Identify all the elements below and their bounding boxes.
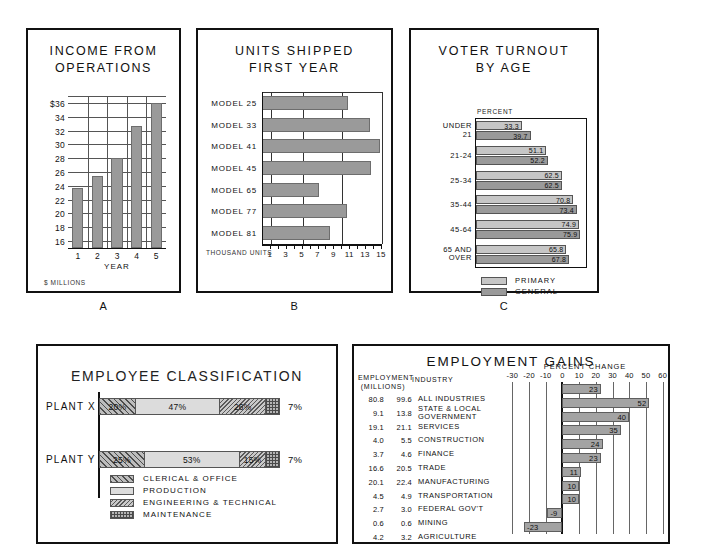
panel-c-age-group: 25-3462.562.5 (476, 168, 586, 193)
panel-c-age-group: 21-2451.152.2 (476, 144, 586, 169)
panel-e-table: 80.899.6ALL INDUSTRIES9.113.8STATE & LOC… (360, 392, 666, 544)
panel-a-y-tick-label: 16 (55, 237, 65, 247)
panel-c-category-label: 21-24 (450, 152, 472, 161)
panel-a-bar (131, 126, 142, 248)
panel-d-legend: CLERICAL & OFFICEPRODUCTIONENGINEERING &… (110, 474, 277, 522)
panel-e-head-employment-line1: EMPLOYMENT (358, 374, 408, 383)
panel-e-industry-label: TRANSPORTATION (418, 491, 493, 499)
panel-d-legend-item: MAINTENANCE (110, 510, 277, 519)
panel-b-tick (365, 244, 366, 249)
panel-c-letter: C (409, 300, 599, 312)
panel-e-tick-label: 20 (591, 371, 600, 380)
panel-e-employment-after: 13.8 (388, 408, 412, 417)
panel-b-tick (286, 244, 287, 249)
panel-d-legend-swatch (110, 487, 134, 495)
panel-b-tick-label: 15 (376, 250, 386, 259)
panel-a-y-tick-label: 18 (55, 223, 65, 233)
panel-e-employment-before: 3.7 (360, 450, 384, 459)
panel-b-row: MODEL 25 (263, 96, 382, 110)
panel-a-y-tick-label: 26 (55, 168, 65, 178)
panel-d-legend-item: CLERICAL & OFFICE (110, 474, 277, 483)
panel-c-plot-area: UNDER2133.339.721-2451.152.225-3462.562.… (475, 118, 587, 268)
panel-b-category-label: MODEL 33 (211, 120, 257, 129)
panel-e-industry-label: TRADE (418, 464, 446, 472)
panel-e-industry-label: CONSTRUCTION (418, 436, 484, 444)
panel-b-tick (325, 244, 326, 249)
panel-e-industry-label: MANUFACTURING (418, 478, 490, 486)
panel-b-tick (318, 244, 319, 249)
panel-e-employment-after: 0.6 (388, 519, 412, 528)
panel-e-tick-label: -20 (523, 371, 534, 380)
panel-e-industry-label-line: ALL INDUSTRIES (418, 395, 486, 403)
panel-a-y-tick-label: 32 (55, 127, 65, 137)
panel-e-table-row: 20.122.4MANUFACTURING (360, 475, 666, 489)
panel-b-bar (263, 183, 319, 197)
panel-a-bar (111, 158, 122, 249)
panel-a-plot-area: 16182022242628303234$3612345 (68, 96, 166, 248)
panel-a-plot-top (68, 96, 166, 97)
panel-e-table-row: 4.23.2AGRICULTURE (360, 530, 666, 544)
panel-d-plant-label: PLANT Y (46, 454, 96, 465)
panel-e-employment-before: 2.7 (360, 505, 384, 514)
panel-c-value-label: 52.2 (530, 157, 544, 164)
figure-sheet: INCOME FROM OPERATIONS 16182022242628303… (0, 0, 701, 546)
panel-e-tick-label: 60 (658, 371, 667, 380)
panel-a-bar (92, 176, 103, 248)
panel-b-tick (294, 244, 295, 249)
panel-a-baseline (68, 248, 166, 249)
panel-e-tick-label: 30 (608, 371, 617, 380)
panel-a-footnote: $ MILLIONS (44, 279, 86, 286)
panel-employee-classification: EMPLOYEE CLASSIFICATION PLANT X20%47%26%… (36, 344, 338, 544)
panel-b-title-line1: UNITS SHIPPED (198, 43, 391, 60)
panel-b-tick (373, 244, 374, 249)
panel-a-x-tick-label: 3 (115, 251, 120, 261)
panel-a-title-line1: INCOME FROM (28, 43, 179, 60)
panel-e-table-row: 0.60.6MINING (360, 516, 666, 530)
panel-c-bar-general: 67.8 (476, 255, 569, 264)
panel-b-plot-area: MODEL 25MODEL 33MODEL 41MODEL 45MODEL 65… (262, 92, 382, 244)
panel-d-segment (266, 399, 279, 414)
panel-c-category-label-line: 21 (443, 131, 472, 140)
panel-d-maintenance-label: 7% (288, 454, 302, 465)
panel-d-segment: 47% (136, 399, 220, 414)
panel-e-employment-after: 22.4 (388, 477, 412, 486)
panel-b-category-label: MODEL 81 (211, 229, 257, 238)
panel-e-industry-label-line: MINING (418, 519, 448, 527)
panel-b-category-label: MODEL 77 (211, 207, 257, 216)
panel-e-head-percent-change: PERCENT CHANGE (504, 362, 666, 371)
panel-e-employment-after: 5.5 (388, 436, 412, 445)
panel-e-tick-label: 50 (642, 371, 651, 380)
panel-e-table-row: 3.74.6FINANCE (360, 447, 666, 461)
panel-a-y-tick-label: 34 (55, 113, 65, 123)
panel-e-table-row: 4.05.5CONSTRUCTION (360, 433, 666, 447)
panel-c-legend: PRIMARYGENERAL (481, 276, 558, 298)
panel-e-industry-label: FINANCE (418, 450, 454, 458)
panel-b-bar (263, 139, 380, 153)
panel-d-segment: 53% (145, 452, 240, 467)
panel-e-tick-label: 10 (575, 371, 584, 380)
panel-c-category-label-line: 25-34 (450, 176, 472, 185)
panel-b-gridline-right (382, 92, 383, 244)
panel-e-employment-before: 4.5 (360, 491, 384, 500)
panel-b-category-label: MODEL 45 (211, 164, 257, 173)
panel-c-category-label: 65 ANDOVER (443, 246, 472, 263)
panel-a-y-tick-label: 30 (55, 140, 65, 150)
panel-b-bar (263, 118, 370, 132)
panel-e-employment-after: 21.1 (388, 422, 412, 431)
panel-e-tick-label: -10 (540, 371, 551, 380)
panel-c-title: VOTER TURNOUT BY AGE (411, 43, 597, 77)
panel-c-value-label: 51.1 (529, 147, 543, 154)
panel-c-bar-primary: 33.3 (476, 121, 522, 130)
panel-c-age-group: 35-4470.873.4 (476, 193, 586, 218)
panel-b-tick (381, 244, 382, 249)
panel-e-industry-label-line: MANUFACTURING (418, 478, 490, 486)
panel-b-row: MODEL 77 (263, 204, 382, 218)
panel-e-tick-label: -30 (507, 371, 518, 380)
panel-b-row: MODEL 81 (263, 226, 382, 240)
panel-e-head-industry: INDUSTRY (412, 376, 498, 385)
panel-voter-turnout: VOTER TURNOUT BY AGE PERCENT UNDER2133.3… (409, 28, 599, 293)
panel-b-bar (263, 96, 348, 110)
panel-b-tick (310, 244, 311, 249)
panel-b-tick-label: 13 (360, 250, 370, 259)
panel-employment-gains: EMPLOYMENT GAINS EMPLOYMENT (MILLIONS) I… (352, 344, 670, 544)
